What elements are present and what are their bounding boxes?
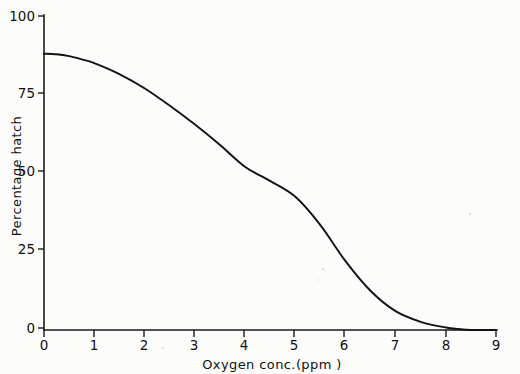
- data-curve-percentage-hatch: [44, 54, 496, 330]
- x-axis-title: Oxygen conc.(ppm ): [202, 357, 342, 372]
- y-tick-label-0: 0: [26, 320, 35, 336]
- x-tick-label-0: 0: [40, 337, 49, 353]
- x-tick-label-1: 1: [90, 337, 99, 353]
- scan-artifacts: [162, 213, 471, 349]
- x-axis-ticks: [44, 330, 496, 337]
- x-tick-label-8: 8: [442, 337, 451, 353]
- x-tick-label-3: 3: [190, 337, 199, 353]
- x-tick-label-6: 6: [340, 337, 349, 353]
- y-axis-ticks: [38, 16, 44, 328]
- y-tick-label-100: 100: [9, 8, 35, 24]
- figure-container: 100 75 50 25 0 0 1 2 3 4 5 6 7 8 9 Oxyge…: [0, 0, 520, 374]
- x-tick-label-5: 5: [290, 337, 299, 353]
- y-tick-label-75: 75: [18, 85, 35, 101]
- y-tick-label-25: 25: [18, 241, 35, 257]
- x-tick-label-7: 7: [391, 337, 400, 353]
- x-tick-label-4: 4: [240, 337, 249, 353]
- y-axis-title: Percentage hatch: [9, 116, 24, 236]
- x-tick-label-2: 2: [140, 337, 149, 353]
- x-tick-label-9: 9: [492, 337, 501, 353]
- line-chart: 100 75 50 25 0 0 1 2 3 4 5 6 7 8 9 Oxyge…: [0, 0, 520, 374]
